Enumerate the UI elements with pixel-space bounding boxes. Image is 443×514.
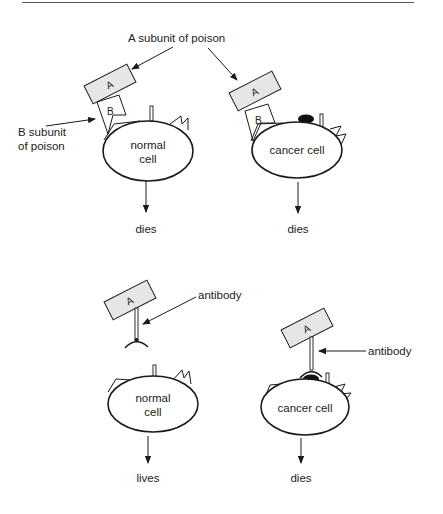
outcome-label: dies — [135, 223, 156, 235]
bottom-right-group: A antibody cancer cell dies — [261, 308, 412, 484]
diagram-canvas: A subunit of poison B subunit of poison … — [0, 0, 443, 514]
cell-label: cancer cell — [278, 402, 333, 414]
top-right-group: B A cancer cell dies — [229, 71, 346, 235]
post-receptor — [150, 106, 153, 121]
antibody-stalk — [135, 308, 138, 340]
a-subunit-arrow-right — [208, 48, 237, 80]
cell-label-line1: normal — [135, 392, 170, 404]
cell-label: cancer cell — [270, 144, 325, 156]
b-subunit-arrow — [46, 119, 95, 126]
antibody-label: antibody — [198, 289, 242, 301]
post-receptor — [320, 114, 323, 127]
outcome-label: dies — [287, 223, 308, 235]
b-subunit-callout-line1: B subunit — [18, 126, 67, 138]
antibody-stalk — [310, 337, 313, 370]
cell-label-line2: cell — [139, 153, 156, 165]
top-left-group: A subunit of poison B subunit of poison … — [18, 32, 237, 235]
bottom-left-group: A antibody normal cell lives — [104, 280, 242, 484]
a-subunit-arrow-left — [132, 47, 173, 69]
b-subunit-letter: B — [107, 106, 114, 117]
normal-cell-bottom — [108, 376, 198, 432]
antibody-cup — [125, 342, 148, 348]
cell-label-line2: cell — [144, 406, 161, 418]
b-subunit-callout-line2: of poison — [18, 140, 65, 152]
outcome-label: dies — [290, 472, 311, 484]
normal-cell-top — [103, 121, 193, 181]
outcome-label: lives — [136, 472, 159, 484]
a-subunit-callout: A subunit of poison — [128, 32, 225, 44]
cell-label-line1: normal — [130, 139, 165, 151]
antibody-label: antibody — [368, 345, 412, 357]
antibody-joint — [135, 338, 139, 342]
